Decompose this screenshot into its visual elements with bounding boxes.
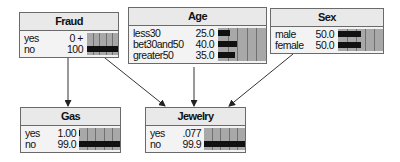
gridline xyxy=(87,128,88,139)
node-states: male50.0female50.0 xyxy=(271,27,383,53)
belief-bar xyxy=(218,52,235,58)
node-states: yes0 +no100 xyxy=(20,31,118,57)
node-title: Age xyxy=(129,8,266,26)
gridline xyxy=(99,33,100,44)
gridline xyxy=(247,50,248,61)
node-jewelry[interactable]: Jewelryyes.077no99.9 xyxy=(145,107,246,153)
state-value: 50.0 xyxy=(316,40,334,51)
gridline xyxy=(112,128,113,139)
belief-bar-track xyxy=(87,44,118,55)
belief-bar-track xyxy=(79,128,120,139)
belief-bar-track xyxy=(218,28,266,39)
gridline xyxy=(374,40,375,51)
gridline xyxy=(220,128,221,139)
state-label: no xyxy=(24,44,35,55)
state-label: no xyxy=(150,139,161,150)
node-title: Fraud xyxy=(20,13,118,31)
state-row[interactable]: female50.0 xyxy=(271,40,383,51)
belief-bar xyxy=(218,41,237,47)
gridline xyxy=(365,29,366,40)
state-value: 99.9 xyxy=(183,139,201,150)
state-label: female xyxy=(275,40,304,51)
gridline xyxy=(95,128,96,139)
gridline xyxy=(374,29,375,40)
belief-bar xyxy=(338,42,361,48)
belief-bar-track xyxy=(338,40,383,51)
belief-bar-track xyxy=(87,33,118,44)
state-label: greater50 xyxy=(133,50,173,61)
gridline xyxy=(256,39,257,50)
belief-bar xyxy=(338,31,361,37)
belief-bar-track xyxy=(204,128,245,139)
state-row[interactable]: no100 xyxy=(20,44,118,55)
state-value: 35.0 xyxy=(196,50,214,61)
gridline xyxy=(212,128,213,139)
belief-bar-track xyxy=(338,29,383,40)
node-states: less3025.0bet30and5040.0greater5035.0 xyxy=(129,26,266,63)
gridline xyxy=(104,128,105,139)
node-title: Sex xyxy=(271,9,383,27)
node-gas[interactable]: Gasyes1.00no99.0 xyxy=(20,107,121,153)
gridline xyxy=(237,28,238,39)
node-title: Gas xyxy=(21,108,120,126)
gridline xyxy=(256,50,257,61)
gridline xyxy=(247,28,248,39)
node-sex[interactable]: Sexmale50.0female50.0 xyxy=(270,8,384,54)
belief-bar xyxy=(79,141,120,147)
gridline xyxy=(247,39,248,50)
belief-bar-track xyxy=(218,39,266,50)
belief-bar-track xyxy=(204,139,245,150)
gridline xyxy=(93,33,94,44)
gridline xyxy=(106,33,107,44)
gridline xyxy=(237,128,238,139)
gridline xyxy=(256,28,257,39)
belief-bar-track xyxy=(218,50,266,61)
gridline xyxy=(229,128,230,139)
belief-bar xyxy=(218,30,230,36)
state-row[interactable]: no99.0 xyxy=(21,139,120,150)
gridline xyxy=(112,33,113,44)
belief-bar xyxy=(87,46,118,52)
node-states: yes1.00no99.0 xyxy=(21,126,120,152)
belief-bar xyxy=(204,141,245,147)
state-value: 100 xyxy=(67,44,83,55)
state-label: no xyxy=(25,139,36,150)
node-fraud[interactable]: Fraudyes0 +no100 xyxy=(19,12,119,58)
node-states: yes.077no99.9 xyxy=(146,126,245,152)
node-age[interactable]: Ageless3025.0bet30and5040.0greater5035.0 xyxy=(128,7,267,64)
gridline xyxy=(365,40,366,51)
belief-bar-track xyxy=(79,139,120,150)
node-title: Jewelry xyxy=(146,108,245,126)
state-row[interactable]: no99.9 xyxy=(146,139,245,150)
gridline xyxy=(237,50,238,61)
state-value: 99.0 xyxy=(58,139,76,150)
state-row[interactable]: greater5035.0 xyxy=(129,50,266,61)
